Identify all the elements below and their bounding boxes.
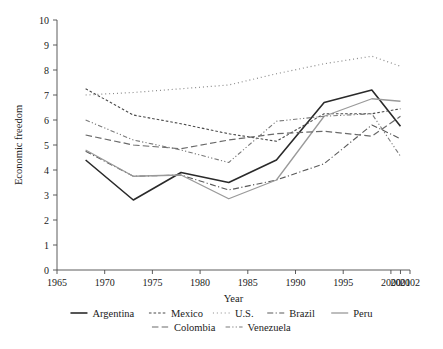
y-tick-label: 5 bbox=[44, 140, 49, 151]
x-tick-label: 1965 bbox=[47, 277, 67, 288]
x-tick-label: 1985 bbox=[238, 277, 258, 288]
legend-label-venezuela: Venezuela bbox=[248, 322, 291, 333]
x-tick-label: 1975 bbox=[142, 277, 162, 288]
y-tick-label: 3 bbox=[44, 190, 49, 201]
legend-label-us: U.S. bbox=[235, 308, 254, 319]
y-tick-label: 8 bbox=[44, 65, 49, 76]
data-series-group bbox=[86, 56, 401, 200]
x-tick-label: 1990 bbox=[286, 277, 306, 288]
x-tick-label: 1970 bbox=[95, 277, 115, 288]
y-tick-label: 2 bbox=[44, 215, 49, 226]
y-tick-label: 0 bbox=[44, 265, 49, 276]
chart-legend: ArgentinaMexicoU.S.BrazilPeruColombiaVen… bbox=[70, 308, 373, 333]
series-line-argentina bbox=[86, 90, 401, 200]
legend-label-brazil: Brazil bbox=[289, 308, 315, 319]
series-line-colombia bbox=[86, 116, 401, 149]
economic-freedom-line-chart: 012345678910 196519701975198019851990199… bbox=[0, 0, 443, 349]
x-tick-label: 1995 bbox=[333, 277, 353, 288]
legend-label-mexico: Mexico bbox=[171, 308, 203, 319]
legend-label-peru: Peru bbox=[353, 308, 373, 319]
chart-canvas: 012345678910 196519701975198019851990199… bbox=[0, 0, 443, 349]
series-line-mexico bbox=[86, 89, 401, 142]
series-line-us bbox=[86, 56, 401, 95]
y-tick-label: 6 bbox=[44, 115, 49, 126]
series-line-peru bbox=[86, 99, 401, 199]
y-axis-title: Economic freedom bbox=[13, 105, 24, 185]
y-tick-label: 10 bbox=[39, 15, 49, 26]
x-tick-label: 2002 bbox=[400, 277, 420, 288]
y-tick-label: 9 bbox=[44, 40, 49, 51]
y-tick-label: 7 bbox=[44, 90, 49, 101]
legend-label-argentina: Argentina bbox=[92, 308, 134, 319]
y-tick-label: 1 bbox=[44, 240, 49, 251]
y-axis: 012345678910 bbox=[39, 15, 57, 276]
series-line-brazil bbox=[86, 125, 401, 190]
x-axis-title: Year bbox=[224, 293, 244, 304]
x-tick-label: 1980 bbox=[190, 277, 210, 288]
legend-label-colombia: Colombia bbox=[174, 322, 216, 333]
y-tick-label: 4 bbox=[44, 165, 49, 176]
x-axis: 1965197019751980198519901995200020012002 bbox=[47, 270, 420, 288]
